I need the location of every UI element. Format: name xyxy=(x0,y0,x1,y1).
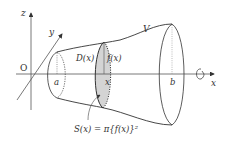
cross-section-region-label: D(x) xyxy=(75,53,94,63)
radius-label: f(x) xyxy=(106,53,122,63)
cross-section-position-label: x xyxy=(105,77,110,87)
upper-profile-curve xyxy=(57,24,172,52)
right-end-ellipse xyxy=(159,24,184,125)
upper-bound-label: b xyxy=(170,77,175,87)
left-end-ellipse-back xyxy=(57,52,65,98)
x-axis-label: x xyxy=(211,78,216,88)
lower-profile-curve xyxy=(57,98,172,125)
solid-of-revolution-diagram: z y O x V D(x) f(x) a x b S(x) = π{f(x)}… xyxy=(0,0,228,143)
area-formula: S(x) = π{f(x)}² xyxy=(74,124,139,134)
lower-bound-label: a xyxy=(54,77,59,87)
origin-label: O xyxy=(20,63,27,73)
z-axis-label: z xyxy=(20,8,26,18)
y-axis-label: y xyxy=(48,27,55,37)
left-end-ellipse-front xyxy=(48,52,57,98)
